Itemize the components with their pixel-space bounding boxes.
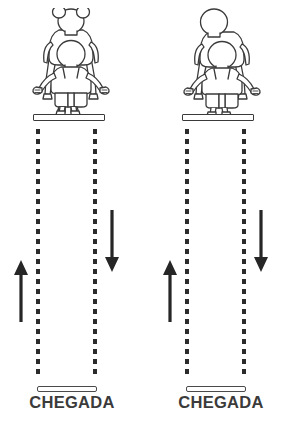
finish-line-bar-right — [186, 386, 246, 392]
arrow-down-left — [104, 210, 120, 272]
lane-line-outer-right — [242, 129, 246, 379]
arrow-down-right — [253, 210, 269, 272]
lane-group-right: CHEGADA — [149, 0, 288, 424]
arrow-up-right — [162, 260, 178, 322]
lane-group-left: CHEGADA — [0, 0, 144, 424]
lane-line-inner-right — [185, 129, 189, 379]
adult-carrying-child-right-figure — [165, 8, 277, 120]
lane-line-outer-left — [93, 129, 97, 379]
arrow-up-left — [13, 260, 29, 322]
finish-label-right: CHEGADA — [149, 393, 288, 412]
finish-line-bar-left — [37, 386, 97, 392]
start-line-bar-left — [33, 114, 105, 121]
finish-label-left: CHEGADA — [0, 393, 144, 412]
lane-line-inner-left — [36, 129, 40, 379]
race-lanes-diagram: CHEGADA — [0, 0, 288, 424]
start-line-bar-right — [182, 114, 254, 121]
adult-carrying-child-left-figure — [16, 8, 128, 120]
